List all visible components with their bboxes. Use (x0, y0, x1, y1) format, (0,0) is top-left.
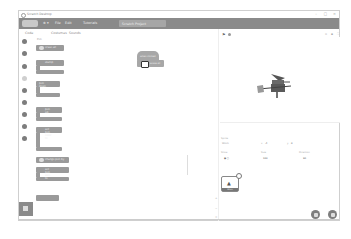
category-sensing[interactable] (22, 100, 27, 105)
pen-icon (39, 46, 44, 50)
direction-input[interactable]: 90 (303, 157, 306, 160)
sprite-name-input[interactable]: Witch (222, 142, 229, 145)
menu-bar: ⊕ ▾ File Edit Tutorials Scratch Project (19, 18, 339, 29)
window-bottom-border (19, 219, 339, 220)
category-motion[interactable] (22, 39, 27, 44)
x-input[interactable]: -4 (265, 142, 267, 145)
project-title-input[interactable]: Scratch Project (119, 20, 166, 27)
code-workspace[interactable]: when clicked erase all + − = (95, 37, 218, 217)
category-my-blocks[interactable] (22, 136, 27, 141)
scratch-logo[interactable] (22, 20, 38, 27)
add-backdrop-button[interactable] (328, 210, 337, 219)
app-window: Scratch Desktop – □ × ⊕ ▾ File Edit Tuto… (18, 10, 340, 221)
tab-costumes[interactable]: Costumes (51, 31, 67, 35)
witch-thumb-icon: ▲ (227, 180, 231, 186)
y-label: y (287, 142, 288, 145)
minimize-button[interactable]: – (315, 12, 317, 16)
category-control[interactable] (22, 88, 27, 93)
tab-sounds[interactable]: Sounds (69, 31, 81, 35)
block-palette: Pen erase all stamp pen down pen up (33, 37, 95, 217)
sprite-label: Sprite (221, 137, 228, 140)
highlighted-input[interactable] (141, 61, 149, 68)
fullscreen-button[interactable]: ⛶ (337, 32, 339, 36)
large-stage-button[interactable]: ▪ (331, 32, 333, 36)
palette-block[interactable]: change pen by (36, 157, 69, 163)
small-stage-button[interactable]: ▫ (325, 32, 327, 36)
sprite-thumbnail[interactable]: ▲ Witch (221, 176, 239, 192)
category-variables[interactable] (22, 124, 27, 129)
palette-block[interactable] (36, 195, 59, 201)
sprite-info-panel: Sprite Witch x -4 y 0 Show Size 100 Dire… (219, 137, 341, 167)
menu-tutorials[interactable]: Tutorials (83, 21, 97, 25)
direction-label: Direction (299, 151, 310, 154)
sprite-thumb-name: Witch (222, 188, 238, 191)
witch-sprite-icon[interactable] (257, 72, 293, 100)
x-label: x (261, 142, 262, 145)
palette-section-title: Pen (37, 38, 42, 41)
stage-canvas[interactable] (220, 37, 340, 123)
y-input[interactable]: 0 (291, 142, 293, 145)
menu-file[interactable]: File (55, 21, 61, 25)
palette-block[interactable]: erase all (36, 45, 64, 51)
maximize-button[interactable]: □ (324, 12, 327, 16)
add-sprite-button[interactable] (311, 210, 320, 219)
show-toggle[interactable]: ◉ ○ (224, 157, 229, 160)
add-extension-button[interactable] (19, 202, 33, 216)
window-title: Scratch Desktop (27, 12, 52, 16)
category-events[interactable] (22, 76, 27, 81)
stage-pane: ⚑ ▫ ▪ ⛶ Sprite Witch x -4 y 0 Show (218, 29, 341, 221)
project-title-text: Scratch Project (122, 22, 146, 26)
language-menu[interactable]: ⊕ ▾ (43, 21, 49, 25)
size-input[interactable]: 100 (263, 157, 268, 160)
tab-code[interactable]: Code (25, 31, 33, 35)
category-operators[interactable] (22, 112, 27, 117)
category-looks[interactable] (22, 51, 27, 56)
show-label: Show (221, 151, 227, 154)
stop-icon[interactable] (228, 33, 231, 36)
delete-sprite-icon[interactable] (236, 173, 242, 179)
app-icon (21, 13, 26, 18)
workspace-scrollbar[interactable] (187, 155, 188, 175)
editor-tabs: Code Costumes Sounds (19, 29, 219, 37)
category-sound[interactable] (22, 64, 27, 69)
size-label: Size (261, 151, 266, 154)
menu-edit[interactable]: Edit (65, 21, 72, 25)
close-button[interactable]: × (333, 12, 336, 16)
stack-block[interactable]: erase all (137, 60, 164, 67)
category-menu (19, 37, 33, 207)
